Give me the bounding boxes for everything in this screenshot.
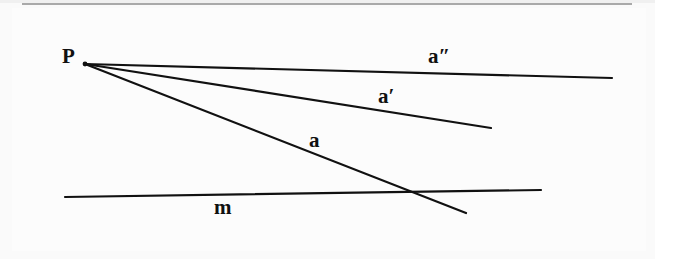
label-ray-a: a bbox=[309, 130, 320, 151]
label-line-m: m bbox=[214, 197, 232, 218]
geometry-diagram-canvas bbox=[0, 0, 679, 267]
line-m bbox=[65, 190, 541, 197]
label-ray-a-double-prime: a″ bbox=[428, 46, 450, 67]
line-a bbox=[85, 64, 466, 213]
label-ray-a-prime: a′ bbox=[378, 86, 394, 107]
label-point-p: P bbox=[62, 46, 75, 67]
vertex-point-p bbox=[83, 62, 88, 67]
figure-root: P a″ a′ a m bbox=[0, 0, 679, 267]
